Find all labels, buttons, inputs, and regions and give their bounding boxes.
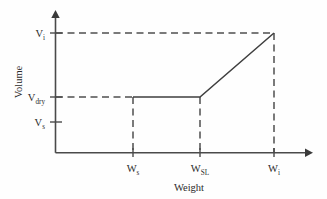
x-tick-label-wi-sub: i	[278, 169, 280, 177]
x-tick-labels-group: Ws WSL Wi	[127, 163, 280, 177]
y-axis-arrow-icon	[51, 10, 59, 18]
y-tick-label-vdry: Vdry	[28, 92, 46, 106]
y-tick-label-vi-sub: i	[43, 34, 45, 42]
chart-canvas: Vi Vdry Vs Ws WSL Wi Weight Volume	[0, 0, 327, 199]
x-tick-label-wsl-base: W	[191, 163, 201, 174]
x-tick-label-wsl-sub: SL	[201, 169, 209, 177]
guide-lines-group	[56, 33, 274, 152]
volume-weight-curve	[133, 33, 274, 97]
volume-weight-figure: Vi Vdry Vs Ws WSL Wi Weight Volume	[0, 0, 327, 199]
x-axis-arrow-icon	[305, 149, 313, 157]
x-tick-label-wsl: WSL	[191, 163, 209, 177]
y-tick-label-vs-sub: s	[42, 123, 45, 131]
y-tick-label-vi: Vi	[35, 28, 45, 42]
y-tick-label-vdry-sub: dry	[35, 98, 45, 106]
tick-marks-group	[50, 33, 274, 157]
x-axis-title: Weight	[174, 182, 204, 193]
x-tick-label-ws-base: W	[127, 163, 137, 174]
y-tick-labels-group: Vi Vdry Vs	[28, 28, 46, 131]
x-tick-label-wi-base: W	[268, 163, 278, 174]
y-tick-label-vs: Vs	[35, 117, 46, 131]
x-tick-label-wi: Wi	[268, 163, 280, 177]
x-tick-label-ws: Ws	[127, 163, 140, 177]
y-axis-title: Volume	[13, 65, 24, 98]
x-tick-label-ws-sub: s	[137, 169, 140, 177]
